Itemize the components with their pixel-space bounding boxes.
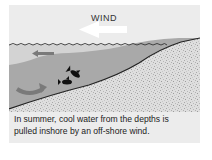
wind-label: WIND <box>91 13 117 23</box>
caption-line-2: pulled inshore by an off-shore wind. <box>14 125 199 137</box>
wind-arrow-icon <box>79 21 127 38</box>
diagram-panel: WIND In summer, cool water from the dept… <box>9 5 200 143</box>
diagram-caption: In summer, cool water from the depths is… <box>14 113 199 137</box>
caption-line-1: In summer, cool water from the depths is <box>14 113 199 125</box>
